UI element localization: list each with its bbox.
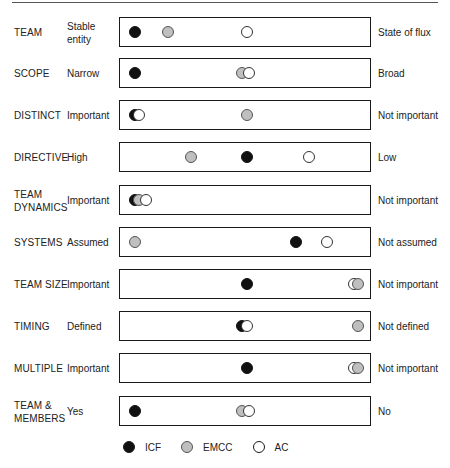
right-pole-label: Not important xyxy=(378,269,450,300)
scale-box xyxy=(119,17,371,47)
scale-box xyxy=(119,100,371,130)
dimension-label: MULTIPLE xyxy=(14,353,72,384)
filled-black-circle-icon xyxy=(123,441,135,453)
right-pole-label: Not important xyxy=(378,100,450,131)
dimension-label: TEAM DYNAMICS xyxy=(14,185,72,216)
legend-label-icf: ICF xyxy=(145,442,161,453)
dimension-label: SYSTEMS xyxy=(14,227,72,258)
icf-marker-icon xyxy=(129,405,141,417)
scale-row: TEAMStable entityState of flux xyxy=(0,17,450,48)
scale-box xyxy=(119,142,371,172)
left-pole-label: High xyxy=(67,142,119,173)
scale-box xyxy=(119,58,371,88)
dimension-label: TEAM & MEMBERS xyxy=(14,396,72,427)
ac-marker-icon xyxy=(133,109,145,121)
left-pole-label: Important xyxy=(67,185,119,216)
scale-row: MULTIPLEImportantNot important xyxy=(0,353,450,384)
left-pole-label: Narrow xyxy=(67,58,119,89)
emcc-marker-icon xyxy=(162,26,174,38)
scale-row: SYSTEMSAssumedNot assumed xyxy=(0,227,450,258)
icf-marker-icon xyxy=(241,362,253,374)
legend-item-ac: AC xyxy=(253,441,289,453)
scale-row: SCOPENarrowBroad xyxy=(0,58,450,89)
icf-marker-icon xyxy=(129,26,141,38)
scale-box xyxy=(119,269,371,299)
left-pole-label: Stable entity xyxy=(67,17,119,48)
scale-row: DISTINCTImportantNot important xyxy=(0,100,450,131)
scale-row: TEAM SIZEImportantNot important xyxy=(0,269,450,300)
legend-label-ac: AC xyxy=(275,442,289,453)
ac-marker-icon xyxy=(241,320,253,332)
left-pole-label: Important xyxy=(67,100,119,131)
emcc-marker-icon xyxy=(352,362,364,374)
dimension-label: TEAM xyxy=(14,17,72,48)
legend: ICF EMCC AC xyxy=(123,440,308,454)
icf-marker-icon xyxy=(241,278,253,290)
emcc-marker-icon xyxy=(241,109,253,121)
top-divider xyxy=(12,2,438,3)
dimension-label: DIRECTIVE xyxy=(14,142,72,173)
right-pole-label: Not defined xyxy=(378,311,450,342)
left-pole-label: Important xyxy=(67,269,119,300)
ac-marker-icon xyxy=(140,194,152,206)
right-pole-label: Not important xyxy=(378,353,450,384)
filled-grey-circle-icon xyxy=(181,441,193,453)
ac-marker-icon xyxy=(303,151,315,163)
scale-row: TEAM & MEMBERSYesNo xyxy=(0,396,450,427)
scale-row: DIRECTIVEHighLow xyxy=(0,142,450,173)
scale-box xyxy=(119,311,371,341)
dimension-label: TIMING xyxy=(14,311,72,342)
right-pole-label: Broad xyxy=(378,58,450,89)
legend-item-icf: ICF xyxy=(123,441,161,453)
dimension-label: SCOPE xyxy=(14,58,72,89)
ac-marker-icon xyxy=(241,26,253,38)
emcc-marker-icon xyxy=(129,236,141,248)
emcc-marker-icon xyxy=(352,278,364,290)
left-pole-label: Assumed xyxy=(67,227,119,258)
icf-marker-icon xyxy=(129,67,141,79)
ac-marker-icon xyxy=(321,236,333,248)
ac-marker-icon xyxy=(243,405,255,417)
ac-marker-icon xyxy=(243,67,255,79)
right-pole-label: Low xyxy=(378,142,450,173)
icf-marker-icon xyxy=(290,236,302,248)
left-pole-label: Yes xyxy=(67,396,119,427)
right-pole-label: No xyxy=(378,396,450,427)
emcc-marker-icon xyxy=(352,320,364,332)
icf-marker-icon xyxy=(241,151,253,163)
right-pole-label: Not assumed xyxy=(378,227,450,258)
left-pole-label: Defined xyxy=(67,311,119,342)
right-pole-label: State of flux xyxy=(378,17,450,48)
scale-row: TEAM DYNAMICSImportantNot important xyxy=(0,185,450,216)
legend-item-emcc: EMCC xyxy=(181,441,232,453)
scale-row: TIMINGDefinedNot defined xyxy=(0,311,450,342)
scale-box xyxy=(119,185,371,215)
scale-box xyxy=(119,353,371,383)
legend-label-emcc: EMCC xyxy=(203,442,232,453)
right-pole-label: Not important xyxy=(378,185,450,216)
left-pole-label: Important xyxy=(67,353,119,384)
dimension-label: TEAM SIZE xyxy=(14,269,72,300)
hollow-circle-icon xyxy=(253,441,265,453)
dimension-label: DISTINCT xyxy=(14,100,72,131)
scale-box xyxy=(119,396,371,426)
emcc-marker-icon xyxy=(185,151,197,163)
scale-box xyxy=(119,227,371,257)
